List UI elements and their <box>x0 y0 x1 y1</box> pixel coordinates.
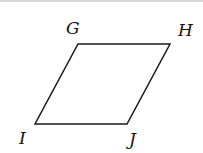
vertex-label-h: H <box>177 20 194 40</box>
vertex-label-g: G <box>66 18 80 38</box>
parallelogram-figure: G H J I <box>0 0 203 153</box>
diagram-canvas: G H J I <box>0 0 203 153</box>
vertex-label-i: I <box>18 128 26 148</box>
parallelogram-GHJI <box>35 44 170 124</box>
vertex-label-j: J <box>126 129 137 149</box>
